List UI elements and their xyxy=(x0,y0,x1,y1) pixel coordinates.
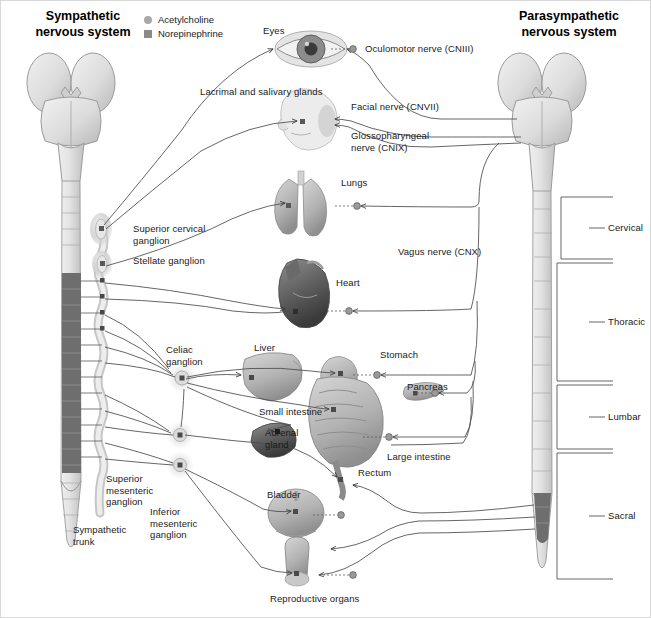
label-vagus-nerve: Vagus nerve (CNX) xyxy=(398,246,481,258)
label-lacrimal-salivary-glands: Lacrimal and salivary glands xyxy=(200,86,323,98)
label-pancreas: Pancreas xyxy=(407,381,448,393)
label-inferior-mesenteric-ganglion: Inferior mesenteric ganglion xyxy=(150,506,197,541)
label-eyes: Eyes xyxy=(263,25,285,37)
label-rectum: Rectum xyxy=(358,467,391,479)
page-title-sympathetic: Sympathetic nervous system xyxy=(13,9,153,40)
page-title-parasympathetic: Parasympathetic nervous system xyxy=(493,9,645,40)
label-thoracic: Thoracic xyxy=(608,316,645,328)
label-cervical: Cervical xyxy=(608,222,643,234)
intestines-illustration xyxy=(309,377,384,499)
acetylcholine-marker-icon xyxy=(144,16,152,24)
label-superior-mesenteric-ganglion: Superior mesenteric ganglion xyxy=(106,473,153,508)
label-sympathetic-trunk: Sympathetic trunk xyxy=(73,524,126,547)
label-bladder: Bladder xyxy=(267,489,300,501)
label-glossopharyngeal-nerve: Glossopharyngeal nerve (CNIX) xyxy=(351,130,429,153)
label-stomach: Stomach xyxy=(380,349,418,361)
label-lumbar: Lumbar xyxy=(608,411,641,423)
spinal-nerve-roots xyxy=(81,278,105,457)
spinal-region-brackets xyxy=(557,197,613,579)
eyes-illustration xyxy=(275,31,347,67)
acetylcholine-synapse-markers xyxy=(313,46,438,579)
sympathetic-trunk-illustration xyxy=(90,213,112,513)
label-adrenal-gland: Adrenal gland xyxy=(265,427,298,450)
label-heart: Heart xyxy=(336,277,360,289)
lungs-illustration xyxy=(275,171,327,236)
head-face-illustration xyxy=(278,89,337,150)
label-reproductive-organs: Reproductive organs xyxy=(270,593,359,605)
label-sacral: Sacral xyxy=(608,510,636,522)
stomach-illustration xyxy=(321,357,358,398)
liver-illustration xyxy=(243,353,302,401)
legend-item-acetylcholine: Acetylcholine xyxy=(144,14,214,25)
prevertebral-ganglia xyxy=(166,363,197,479)
label-large-intestine: Large intestine xyxy=(387,451,451,463)
heart-illustration xyxy=(279,259,330,328)
label-small-intestine: Small intestine xyxy=(259,406,322,418)
label-oculomotor-nerve: Oculomotor nerve (CNIII) xyxy=(365,43,473,55)
reproductive-organs-illustration xyxy=(285,537,309,586)
label-superior-cervical-ganglion: Superior cervical ganglion xyxy=(133,223,205,246)
label-facial-nerve: Facial nerve (CNVII) xyxy=(351,101,439,113)
label-stellate-ganglion: Stellate ganglion xyxy=(133,255,205,267)
label-liver: Liver xyxy=(254,342,275,354)
autonomic-nervous-system-diagram: Sympathetic nervous system Parasympathet… xyxy=(0,0,651,618)
legend-item-norepinephrine: Norepinephrine xyxy=(144,28,223,39)
legend-label-acetylcholine: Acetylcholine xyxy=(158,14,214,25)
legend-label-norepinephrine: Norepinephrine xyxy=(158,28,223,39)
sympathetic-brain-illustration xyxy=(27,53,115,547)
label-celiac-ganglion: Celiac ganglion xyxy=(166,344,203,367)
parasympathetic-brain-illustration xyxy=(498,53,586,568)
norepinephrine-marker-icon xyxy=(144,30,152,38)
label-lungs: Lungs xyxy=(341,177,367,189)
parasympathetic-nerve-pathways xyxy=(319,49,535,575)
